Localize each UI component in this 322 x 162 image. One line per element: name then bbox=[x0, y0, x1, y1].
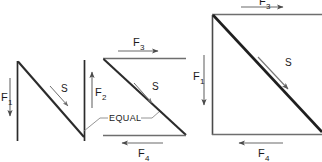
f3-subscript-right: 3 bbox=[266, 2, 271, 11]
f3-subscript-middle: 3 bbox=[140, 43, 145, 52]
s-label-left: S bbox=[61, 83, 68, 94]
panel-middle: F 3 S F 4 bbox=[103, 36, 186, 162]
f3-label-middle: F bbox=[133, 36, 140, 48]
equal-leader-left bbox=[84, 118, 100, 131]
s-shear-arrow-right bbox=[258, 57, 288, 89]
f4-label-middle: F bbox=[138, 147, 145, 159]
f1-subscript-right: 1 bbox=[200, 77, 205, 86]
f3-label-right: F bbox=[259, 0, 266, 7]
f1-subscript: 1 bbox=[8, 98, 13, 107]
s-label-right: S bbox=[285, 57, 292, 68]
f2-label: F bbox=[95, 86, 102, 98]
f4-subscript-middle: 4 bbox=[145, 154, 150, 162]
f4-subscript-right: 4 bbox=[265, 154, 270, 162]
s-shear-arrow-middle bbox=[134, 83, 152, 103]
figure-root: F 1 S F 2 EQUAL F 3 bbox=[0, 0, 322, 162]
panel-right: F 3 F 1 S F 4 bbox=[193, 0, 322, 162]
equal-leader-right bbox=[152, 111, 160, 118]
right-panel-diagonal-member bbox=[213, 15, 322, 132]
f1-label: F bbox=[1, 91, 8, 103]
equal-annotation: EQUAL bbox=[109, 113, 142, 123]
panel-left: F 1 S F 2 EQUAL bbox=[1, 60, 160, 141]
left-diagonal-member bbox=[18, 62, 84, 138]
diagram-canvas: F 1 S F 2 EQUAL F 3 bbox=[0, 0, 322, 162]
s-label-middle: S bbox=[152, 81, 159, 92]
f1-label-right: F bbox=[193, 70, 200, 82]
f2-subscript: 2 bbox=[102, 93, 107, 102]
middle-diagonal-member bbox=[104, 59, 187, 135]
f4-label-right: F bbox=[258, 147, 265, 159]
